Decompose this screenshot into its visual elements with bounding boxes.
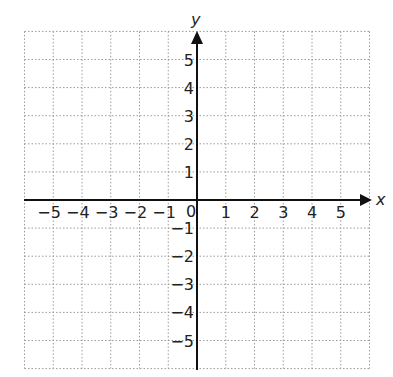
y-axis-arrow-icon [191,31,203,44]
x-tick-label: 2 [250,203,260,222]
x-axis-arrow-icon [360,194,372,206]
y-tick-label: 1 [184,163,194,182]
x-tick-label: −3 [95,203,119,222]
x-tick-label: −4 [66,203,90,222]
y-tick-label: −5 [170,332,194,351]
coordinate-grid: x y 0 −5−4−3−2−112345 54321−1−2−3−4−5 [0,0,393,377]
y-tick-label: 3 [184,107,194,126]
x-tick-label: 5 [336,203,346,222]
y-tick-label: −1 [170,219,194,238]
y-tick-label: 4 [184,79,194,98]
y-tick-label: −2 [170,247,194,266]
x-tick-label: 1 [221,203,231,222]
y-tick-label: −4 [170,303,194,322]
x-tick-label: −2 [124,203,148,222]
y-tick-label: −3 [170,275,194,294]
axes: x y 0 [24,10,386,370]
y-tick-label: 2 [184,135,194,154]
x-tick-label: −5 [37,203,61,222]
y-tick-label: 5 [184,51,194,70]
x-axis-label: x [375,190,386,209]
x-tick-label: 4 [307,203,317,222]
x-tick-label: 3 [278,203,288,222]
y-axis-label: y [190,10,201,29]
